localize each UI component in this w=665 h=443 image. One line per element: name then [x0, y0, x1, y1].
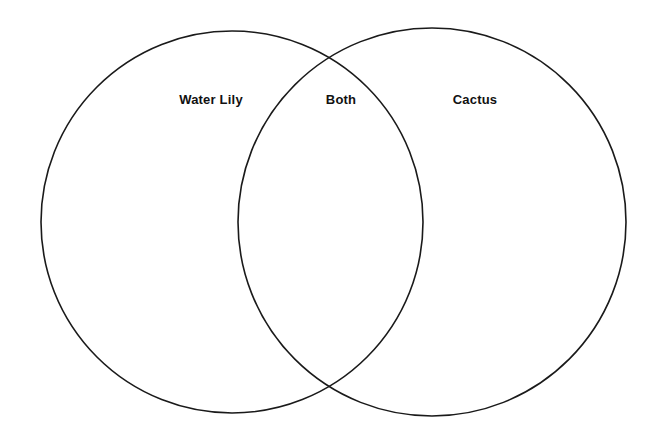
venn-circle-left	[41, 31, 423, 413]
venn-label-right: Cactus	[453, 92, 498, 107]
venn-label-overlap: Both	[326, 92, 356, 107]
venn-diagram-canvas: Water Lily Both Cactus	[0, 0, 665, 443]
venn-circles-group	[0, 0, 665, 443]
venn-circle-right	[238, 28, 626, 416]
venn-label-left: Water Lily	[179, 92, 243, 107]
